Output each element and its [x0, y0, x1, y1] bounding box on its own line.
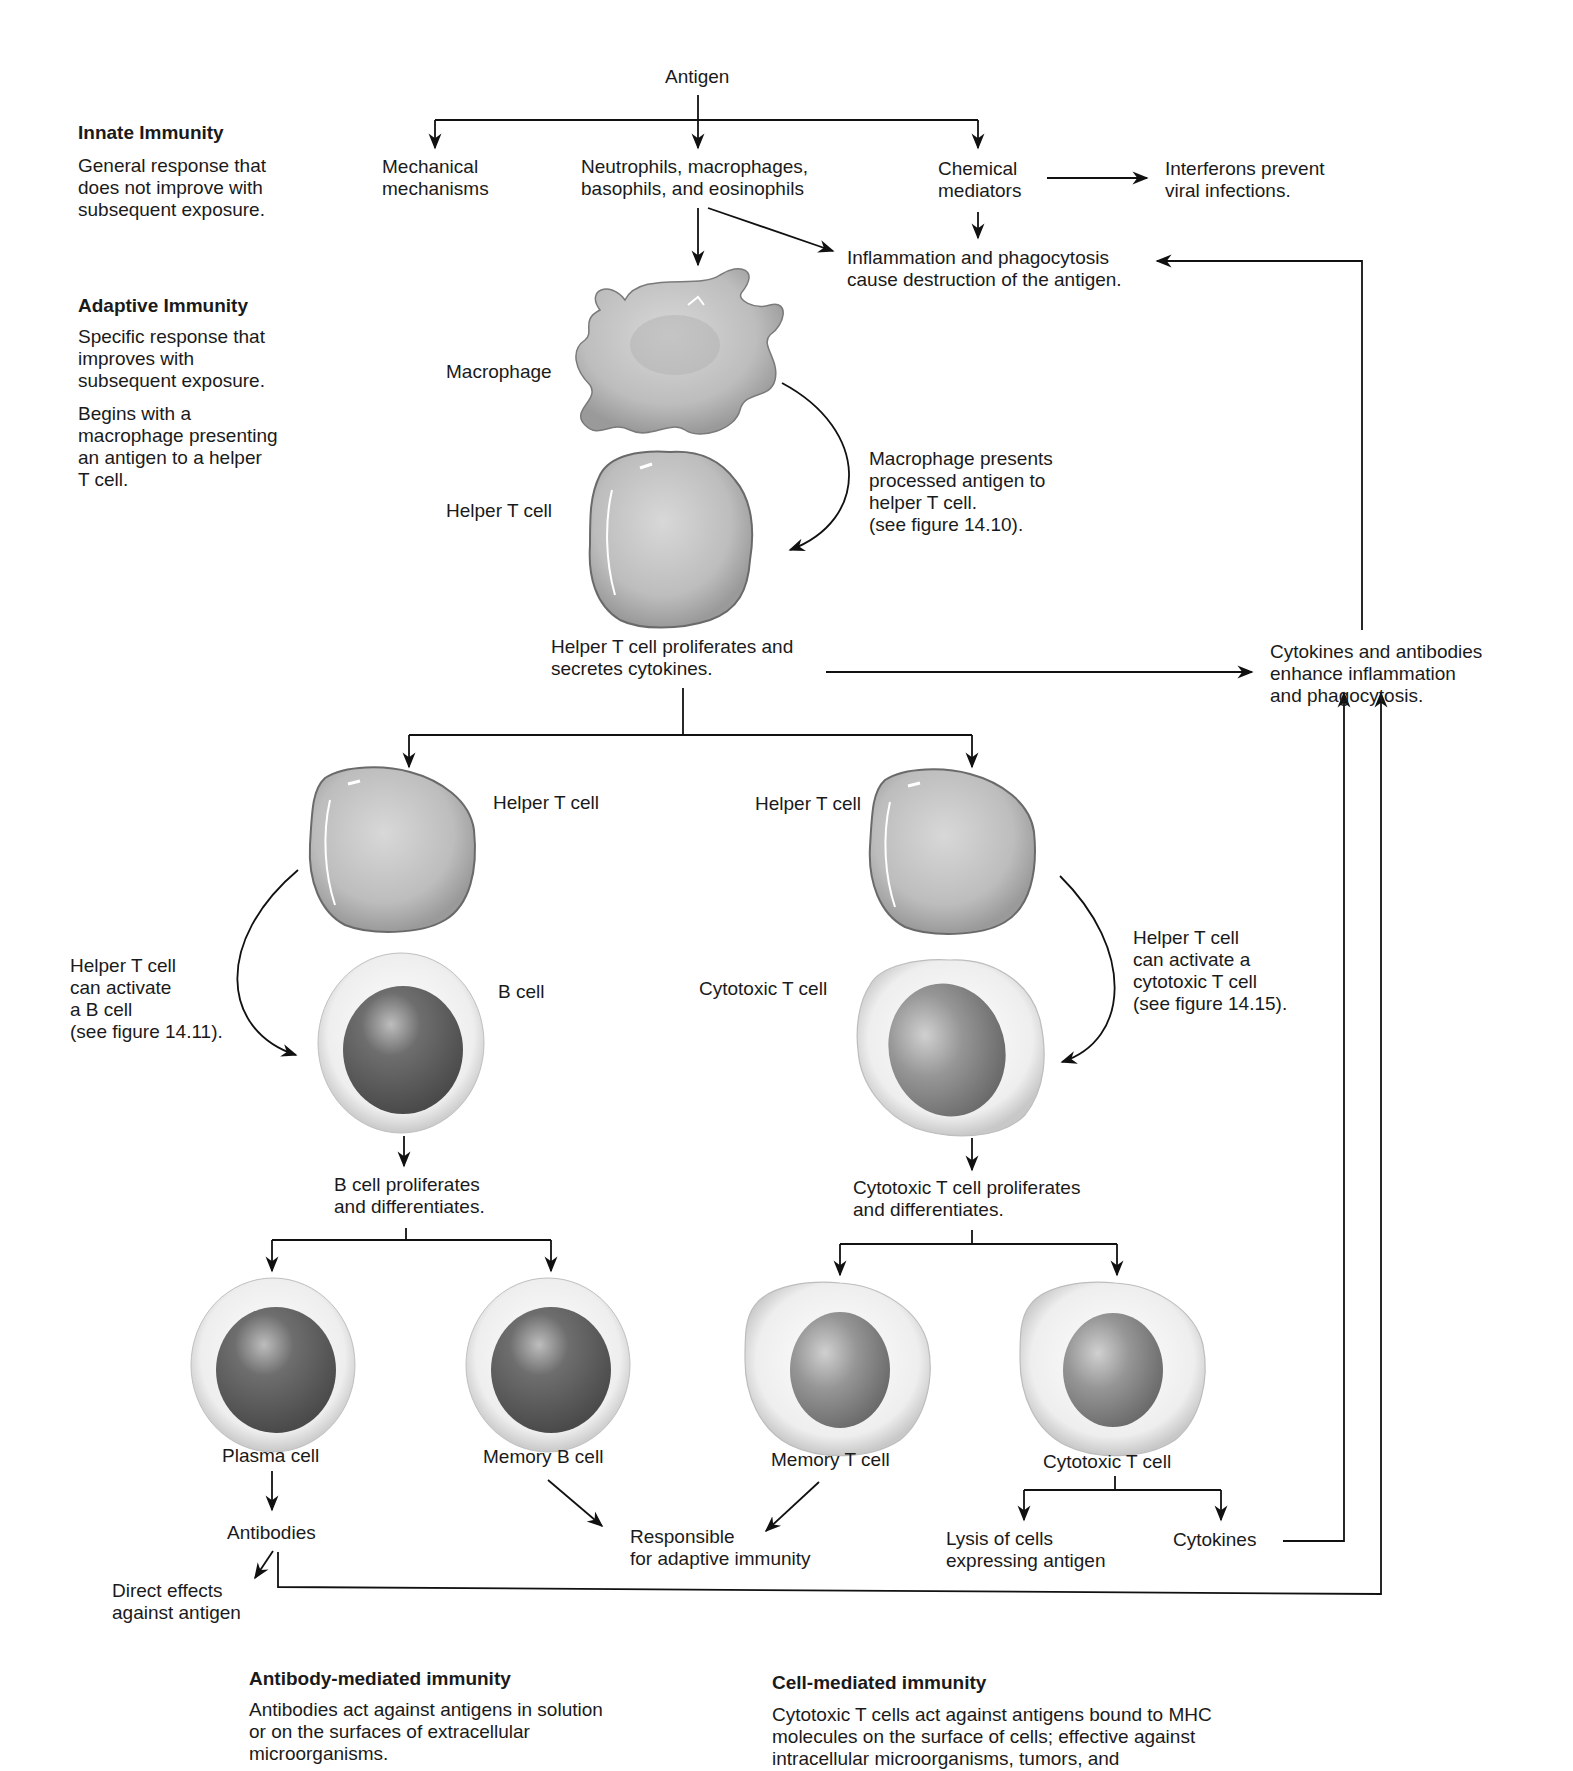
- b-cell-label: B cell: [498, 981, 544, 1003]
- direct-effects-label: Direct effects against antigen: [112, 1580, 241, 1624]
- enhance-inflammation-label: Cytokines and antibodies enhance inflamm…: [1270, 641, 1482, 707]
- left-helper-t-label: Helper T cell: [493, 792, 599, 814]
- arrow-helper-activates-b-cell: [237, 870, 298, 1055]
- b-cell: [318, 953, 484, 1133]
- cytotoxic-t-cell-bottom-label: Cytotoxic T cell: [1043, 1451, 1171, 1473]
- adaptive-immunity-description: Specific response that improves with sub…: [78, 326, 265, 392]
- memory-t-cell-label: Memory T cell: [771, 1449, 890, 1471]
- right-helper-t-label: Helper T cell: [755, 793, 861, 815]
- arrow-macrophage-presents: [782, 383, 849, 550]
- antibodies-label: Antibodies: [227, 1522, 316, 1544]
- arrow-cytokines-to-enhance: [1283, 693, 1344, 1541]
- cytotoxic-t-cell: [857, 960, 1044, 1136]
- plasma-cell: [191, 1278, 355, 1452]
- antibody-mediated-description: Antibodies act against antigens in solut…: [249, 1699, 603, 1765]
- lysis-label: Lysis of cells expressing antigen: [946, 1528, 1106, 1572]
- macrophage-presents-note: Macrophage presents processed antigen to…: [869, 448, 1053, 536]
- arrow-enhance-to-inflammation: [1157, 261, 1362, 630]
- helper-t-cell-center: [590, 452, 753, 628]
- helper-t-cell-label: Helper T cell: [446, 500, 552, 522]
- arrow-memory-t-to-responsible: [766, 1482, 819, 1531]
- responsible-label: Responsible for adaptive immunity: [630, 1526, 811, 1570]
- adaptive-immunity-title: Adaptive Immunity: [78, 295, 248, 317]
- connector-layer: [0, 0, 1573, 1771]
- activate-cytotoxic-note: Helper T cell can activate a cytotoxic T…: [1133, 927, 1287, 1015]
- activate-b-cell-note: Helper T cell can activate a B cell (see…: [70, 955, 223, 1043]
- macrophage-label: Macrophage: [446, 361, 552, 383]
- memory-b-cell-label: Memory B cell: [483, 1446, 603, 1468]
- antibody-mediated-title: Antibody-mediated immunity: [249, 1668, 511, 1690]
- cytotoxic-t-cell-label: Cytotoxic T cell: [699, 978, 827, 1000]
- helper-t-cell-left: [310, 767, 475, 932]
- arrow-helper-activates-cytotoxic: [1060, 876, 1115, 1062]
- innate-immunity-title: Innate Immunity: [78, 122, 224, 144]
- cytokines-label: Cytokines: [1173, 1529, 1256, 1551]
- arrow-antibodies-to-direct: [255, 1551, 273, 1578]
- chemical-mediators-label: Chemical mediators: [938, 158, 1021, 202]
- helper-t-cell-right: [870, 769, 1035, 934]
- arrow-memory-b-to-responsible: [548, 1480, 602, 1526]
- innate-immunity-description: General response that does not improve w…: [78, 155, 266, 221]
- antigen-label: Antigen: [665, 66, 729, 88]
- inflammation-label: Inflammation and phagocytosis cause dest…: [847, 247, 1122, 291]
- arrow-phagocytes-to-inflammation: [708, 208, 833, 251]
- helper-proliferates-label: Helper T cell proliferates and secretes …: [551, 636, 793, 680]
- memory-t-cell: [745, 1282, 930, 1455]
- adaptive-immunity-begins: Begins with a macrophage presenting an a…: [78, 403, 278, 491]
- cytotoxic-t-cell-bottom: [1020, 1282, 1205, 1455]
- cell-mediated-title: Cell-mediated immunity: [772, 1672, 986, 1694]
- cytotoxic-proliferates-label: Cytotoxic T cell proliferates and differ…: [853, 1177, 1080, 1221]
- phagocytes-label: Neutrophils, macrophages, basophils, and…: [581, 156, 808, 200]
- memory-b-cell: [466, 1278, 630, 1452]
- plasma-cell-label: Plasma cell: [222, 1445, 319, 1467]
- cell-mediated-description: Cytotoxic T cells act against antigens b…: [772, 1704, 1212, 1770]
- mechanical-mechanisms-label: Mechanical mechanisms: [382, 156, 489, 200]
- b-cell-proliferates-label: B cell proliferates and differentiates.: [334, 1174, 485, 1218]
- interferons-label: Interferons prevent viral infections.: [1165, 158, 1324, 202]
- macrophage-cell: [576, 269, 783, 434]
